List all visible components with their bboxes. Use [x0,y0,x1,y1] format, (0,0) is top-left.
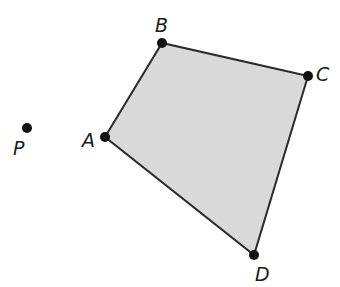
label-c: C [316,63,330,85]
point-a [100,132,110,142]
diagram: ABCDP [0,0,340,287]
point-p [22,123,32,133]
label-p: P [13,137,25,159]
point-d [249,250,259,260]
point-c [303,71,313,81]
label-d: D [255,263,270,285]
label-a: A [80,129,95,151]
label-b: B [155,14,168,36]
quadrilateral-abcd [105,43,308,255]
point-b [157,38,167,48]
